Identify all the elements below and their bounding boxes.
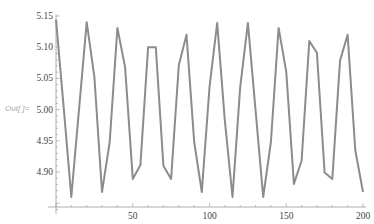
- y-tick-label: 5.00: [36, 105, 53, 115]
- x-tick-label: 100: [202, 211, 217, 221]
- y-tick-label: 5.05: [36, 73, 53, 83]
- x-tick-label: 150: [279, 211, 294, 221]
- x-tick-label: 50: [128, 211, 138, 221]
- y-tick-label: 4.95: [36, 136, 53, 146]
- data-series-line: [56, 20, 363, 197]
- y-tick-label: 5.15: [36, 11, 53, 21]
- line-chart: 501001502004.904.955.005.055.105.15: [0, 0, 374, 224]
- y-tick-label: 5.10: [36, 42, 53, 52]
- x-tick-label: 200: [356, 211, 371, 221]
- y-tick-label: 4.90: [36, 167, 53, 177]
